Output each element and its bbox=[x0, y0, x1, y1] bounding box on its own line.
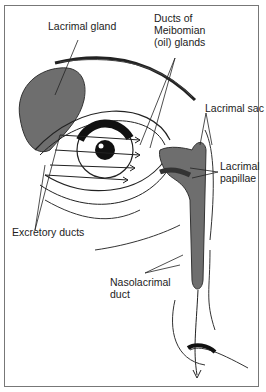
nose-outline bbox=[173, 300, 205, 365]
lacrimal-apparatus-illustration bbox=[0, 0, 266, 392]
label-lacrimal-papillae-line1: Lacrimal bbox=[220, 160, 260, 172]
label-lacrimal-sac: Lacrimal sac bbox=[205, 102, 264, 114]
lacrimal-gland bbox=[19, 68, 85, 152]
pupil bbox=[95, 140, 115, 160]
lacrimal-sac-and-duct bbox=[159, 143, 206, 290]
label-lacrimal-papillae-line2: papillae bbox=[220, 172, 256, 184]
label-meibomian-line1: Ducts of bbox=[154, 12, 193, 24]
label-nasolacrimal-line2: duct bbox=[110, 288, 130, 300]
label-excretory-ducts: Excretory ducts bbox=[12, 226, 84, 238]
label-meibomian-line3: (oil) glands bbox=[154, 36, 205, 48]
label-meibomian-line2: Meibomian bbox=[154, 24, 205, 36]
label-nasolacrimal-line1: Nasolacrimal bbox=[110, 276, 171, 288]
label-lacrimal-gland: Lacrimal gland bbox=[48, 20, 116, 32]
